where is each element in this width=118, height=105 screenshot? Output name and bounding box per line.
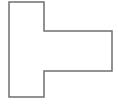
shape-figure-svg (0, 0, 118, 100)
figure-area (0, 0, 118, 100)
screenshot-root (0, 0, 118, 105)
